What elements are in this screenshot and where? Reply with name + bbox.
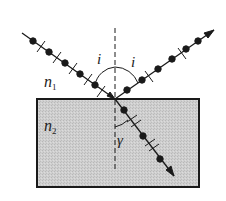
reflected-angle-label: i [131, 54, 135, 70]
reflected-ray [115, 30, 214, 99]
medium-1-subscript: 1 [52, 82, 57, 92]
medium-2-n: n [44, 117, 52, 134]
medium-1-n: n [44, 73, 52, 90]
medium-2-subscript: 2 [52, 126, 57, 136]
medium-1-label: n1 [44, 73, 57, 92]
reflection-refraction-diagram: i i n1 n2 γ [0, 0, 226, 201]
incident-angle-label: i [97, 51, 101, 67]
incident-angle-arc [95, 67, 115, 85]
